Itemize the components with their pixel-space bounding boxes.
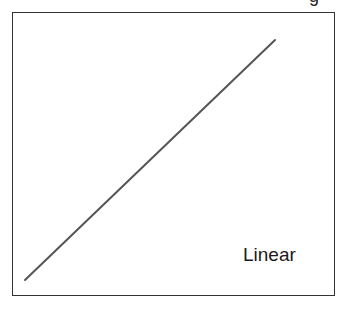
curve-label: Linear xyxy=(243,244,296,266)
linear-curve xyxy=(25,40,275,280)
